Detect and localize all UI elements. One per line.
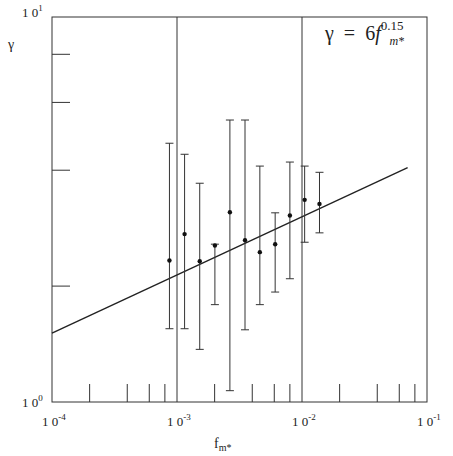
plot-frame [52,17,427,402]
marker [243,238,247,242]
data-point [241,120,249,330]
marker [213,243,217,247]
y-axis-title: γ [8,38,14,52]
marker [167,258,171,262]
y-tick-top: 1 01 [22,6,43,19]
x-tick-1e-2: 1 0-2 [292,415,316,428]
data-point [226,120,234,391]
data-point [286,162,294,279]
marker [317,202,321,206]
x-tick-1e-1: 1 0-1 [417,415,441,428]
data-point [271,213,279,292]
marker [182,232,186,236]
marker [273,242,277,246]
plot-area [0,0,453,456]
data-point [165,143,173,328]
y-tick-bottom: 1 00 [22,396,43,409]
data-point [181,154,189,328]
x-tick-1e-3: 1 0-3 [167,415,191,428]
marker [258,250,262,254]
marker [288,213,292,217]
marker [302,198,306,202]
fit-equation: γ = 6f0.15m* [325,22,404,45]
data-point [315,172,323,233]
marker [228,210,232,214]
x-tick-1e-4: 1 0-4 [42,415,66,428]
data-point [211,243,219,304]
marker [198,259,202,263]
x-axis-title: fm* [214,437,231,451]
